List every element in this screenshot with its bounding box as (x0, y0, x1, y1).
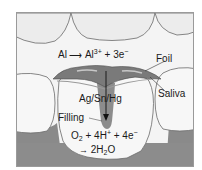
filling-label: Filling (58, 113, 84, 123)
anode-reaction-label: Al ⟶ Al3+ + 3e− (58, 50, 128, 60)
lower-tooth-right (155, 68, 193, 131)
lower-tooth-left (17, 73, 55, 133)
diagram-frame: Al ⟶ Al3+ + 3e− Foil Saliva Ag/Sn/Hg Fil… (16, 12, 194, 167)
filling-alloy-label: Ag/Sn/Hg (79, 94, 122, 104)
cathode-reaction-line1: O2 + 4H+ + 4e− (71, 131, 138, 141)
saliva-label: Saliva (158, 89, 185, 99)
foil-label: Foil (156, 54, 172, 64)
cathode-reaction-line2: → 2H2O (79, 145, 115, 155)
